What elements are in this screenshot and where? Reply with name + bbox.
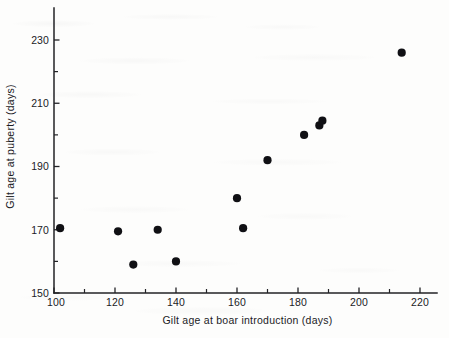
x-axis-tick-label: 200 [350,296,368,308]
data-point [154,226,162,234]
data-point [114,227,122,235]
data-point [318,117,326,125]
y-axis-tick-label: 190 [31,160,49,172]
data-point [398,49,406,57]
data-point [263,156,271,164]
data-point-series [56,49,406,269]
x-axis-tick-label: 220 [411,296,429,308]
data-point [172,257,180,265]
plot-canvas: 150170190210230 100120140160180200220 Gi… [0,0,449,338]
data-point [56,224,64,232]
y-axis-tick-label: 210 [31,97,49,109]
x-axis: 100120140160180200220 [47,288,437,309]
scatter-plot-figure: 150170190210230 100120140160180200220 Gi… [0,0,449,338]
data-point [239,224,247,232]
x-axis-tick-label: 180 [289,296,307,308]
y-axis-tick-label: 170 [31,224,49,236]
data-point [233,194,241,202]
y-axis: 150170190210230 [31,8,59,299]
data-point [300,131,308,139]
x-axis-tick-label: 120 [106,296,124,308]
data-point [129,260,137,268]
x-axis-tick-label: 140 [167,296,185,308]
x-axis-tick-label: 100 [47,296,65,308]
x-axis-tick-label: 160 [228,296,246,308]
y-axis-tick-label: 230 [31,34,49,46]
y-axis-title: Gilt age at puberty (days) [4,84,16,208]
x-axis-title: Gilt age at boar introduction (days) [162,314,332,326]
